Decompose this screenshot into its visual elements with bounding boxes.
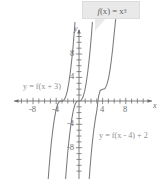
- callout-equation: f(x) = x3: [83, 2, 141, 20]
- callout-arg: (x) = x: [100, 6, 123, 16]
- cubic-transformations-figure: -8 -4 4 8 8 4 -4 -8 x y y = f(x + 3) y =…: [0, 0, 167, 179]
- left-curve-label: y = f(x + 3): [23, 83, 61, 91]
- x-axis-arrow-right: [148, 99, 153, 103]
- x-axis-label: x: [153, 102, 157, 110]
- x-tick-label--8: -8: [29, 105, 36, 114]
- x-tick-label-4: 4: [100, 105, 104, 114]
- x-tick-label-8: 8: [123, 105, 127, 114]
- y-tick-label--4: -4: [67, 119, 74, 128]
- function-callout-box: f(x) = x3: [82, 1, 140, 19]
- y-axis-label: y: [74, 25, 78, 33]
- x-axis-arrow-left: [14, 99, 19, 103]
- y-tick-label--8: -8: [67, 143, 74, 152]
- x-tick-label--4: -4: [52, 105, 59, 114]
- right-curve-label: y = f(x - 4) + 2: [99, 132, 148, 140]
- y-tick-label-4: 4: [70, 72, 74, 81]
- y-tick-label-8: 8: [70, 49, 74, 58]
- curve-f-x-plus-3: [48, 22, 75, 179]
